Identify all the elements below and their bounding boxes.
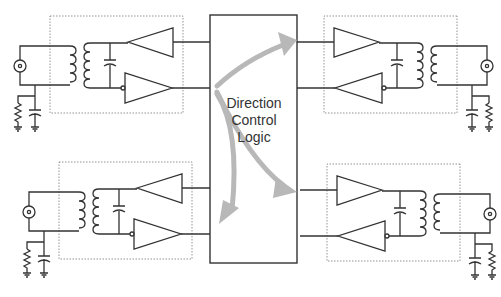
label-line-1: Direction — [212, 95, 296, 112]
channel-top-right — [297, 16, 493, 131]
channel-bottom-left — [23, 162, 219, 277]
direction-control-label: Direction Control Logic — [212, 95, 296, 146]
label-line-2: Control — [212, 112, 296, 129]
channel-top-left — [14, 16, 210, 131]
channel-bottom-right — [300, 164, 496, 279]
diagram-canvas — [0, 0, 501, 297]
label-line-3: Logic — [212, 129, 296, 146]
